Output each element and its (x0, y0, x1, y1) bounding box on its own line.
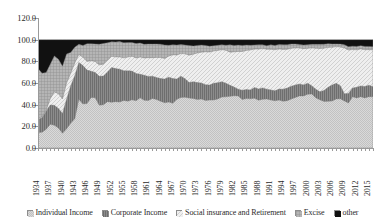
x-tick (124, 148, 125, 151)
area-series (38, 94, 373, 148)
y-tick-label: 60.0 (2, 79, 36, 87)
legend-item[interactable]: other (334, 208, 359, 217)
x-tick (181, 148, 182, 151)
x-tick (332, 148, 333, 151)
x-tick (185, 148, 186, 151)
x-tick (255, 148, 256, 151)
x-tick (214, 148, 215, 151)
x-tick-label: 1949 (94, 181, 102, 196)
x-tick (83, 148, 84, 151)
x-tick (169, 148, 170, 151)
x-tick-label: 1952 (107, 181, 115, 196)
x-tick (299, 148, 300, 151)
legend-swatch-icon (27, 210, 33, 216)
x-tick (263, 148, 264, 151)
x-tick-label: 1967 (168, 181, 176, 196)
x-tick-label: 2000 (303, 181, 311, 196)
x-tick-label: 2003 (315, 181, 323, 196)
x-tick (75, 148, 76, 151)
x-tick (103, 148, 104, 151)
x-tick (148, 148, 149, 151)
x-tick-label: 1937 (45, 181, 53, 196)
x-tick-label: 1982 (229, 181, 237, 196)
x-tick (210, 148, 211, 151)
legend-item[interactable]: Social insurance and Retirement (176, 208, 286, 217)
x-tick (320, 148, 321, 151)
x-tick (373, 148, 374, 151)
area-series-group (38, 18, 373, 148)
x-tick (197, 148, 198, 151)
x-tick (312, 148, 313, 151)
x-tick (304, 148, 305, 151)
legend-label: Corporate Income (111, 208, 167, 217)
x-tick (226, 148, 227, 151)
y-axis-line (38, 18, 39, 148)
x-tick (189, 148, 190, 151)
y-tick-label: 80.0 (2, 57, 36, 65)
x-axis: 1934193719401943194619491952195519581961… (38, 150, 373, 196)
x-tick-label: 2006 (327, 181, 335, 196)
legend-swatch-icon (176, 210, 182, 216)
x-tick-label: 2015 (364, 181, 372, 196)
x-tick (267, 148, 268, 151)
x-tick (63, 148, 64, 151)
x-tick (357, 148, 358, 151)
x-tick (201, 148, 202, 151)
plot-clip (38, 18, 373, 148)
x-tick (79, 148, 80, 151)
legend-swatch-icon (334, 210, 340, 216)
x-tick (50, 148, 51, 151)
x-tick (116, 148, 117, 151)
x-tick-label: 1994 (278, 181, 286, 196)
x-tick (275, 148, 276, 151)
x-tick (144, 148, 145, 151)
y-tick-label: 40.0 (2, 101, 36, 109)
x-tick-label: 1988 (254, 181, 262, 196)
legend-swatch-icon (102, 210, 108, 216)
x-tick (246, 148, 247, 151)
x-tick-label: 1946 (82, 181, 90, 196)
legend-label: Individual Income (36, 208, 93, 217)
x-tick (340, 148, 341, 151)
x-tick (58, 148, 59, 151)
x-tick-label: 1943 (70, 181, 78, 196)
x-tick (287, 148, 288, 151)
x-tick (230, 148, 231, 151)
x-tick (283, 148, 284, 151)
x-tick (295, 148, 296, 151)
x-tick (316, 148, 317, 151)
legend-item[interactable]: Excise (295, 208, 325, 217)
y-tick-label: 0.0 (2, 144, 36, 152)
x-tick (71, 148, 72, 151)
legend-item[interactable]: Individual Income (27, 208, 93, 217)
y-tick-label: 20.0 (2, 122, 36, 130)
x-tick (91, 148, 92, 151)
x-tick (222, 148, 223, 151)
x-tick (87, 148, 88, 151)
x-tick (173, 148, 174, 151)
x-tick (279, 148, 280, 151)
x-tick (165, 148, 166, 151)
x-tick (107, 148, 108, 151)
x-tick (161, 148, 162, 151)
x-tick (271, 148, 272, 151)
x-tick-label: 2009 (339, 181, 347, 196)
x-tick-label: 1958 (131, 181, 139, 196)
y-tick-label: 100.0 (2, 36, 36, 44)
x-tick (234, 148, 235, 151)
x-tick (336, 148, 337, 151)
legend-item[interactable]: Corporate Income (102, 208, 167, 217)
legend-label: Excise (304, 208, 325, 217)
x-tick-label: 1961 (143, 181, 151, 196)
x-tick (308, 148, 309, 151)
x-tick (242, 148, 243, 151)
x-tick (291, 148, 292, 151)
x-tick (250, 148, 251, 151)
x-tick (99, 148, 100, 151)
x-tick-label: 1997 (290, 181, 298, 196)
x-tick-label: 1955 (119, 181, 127, 196)
x-tick (67, 148, 68, 151)
x-tick (369, 148, 370, 151)
x-tick (42, 148, 43, 151)
x-tick (46, 148, 47, 151)
